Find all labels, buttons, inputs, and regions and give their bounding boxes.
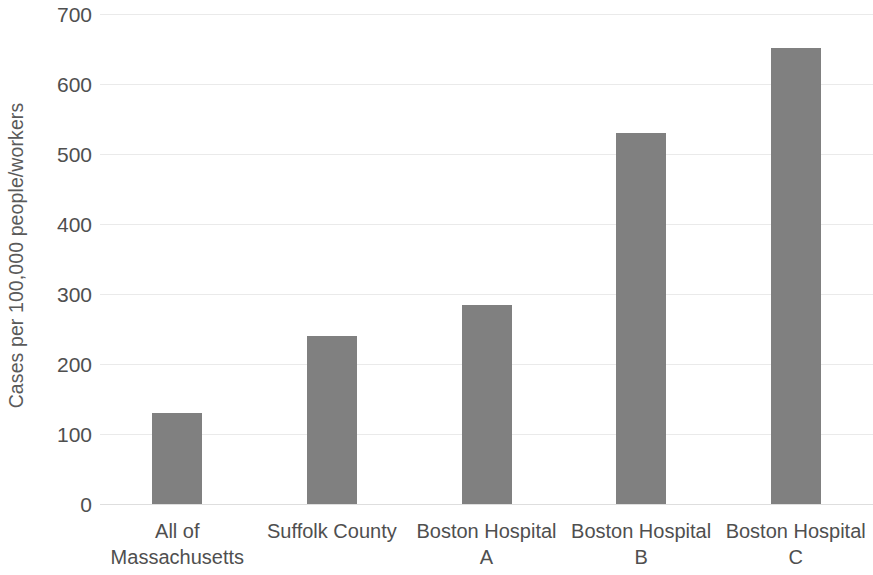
- x-axis-tick-label: Suffolk County: [254, 518, 410, 544]
- y-axis-title: Cases per 100,000 people/workers: [0, 0, 34, 510]
- bar: [462, 305, 512, 505]
- bars-layer: [100, 0, 873, 510]
- y-axis-tick-label: 200: [34, 354, 92, 375]
- bar: [307, 336, 357, 504]
- bar: [616, 133, 666, 504]
- x-axis-tick-label: Boston Hospital A: [409, 518, 565, 571]
- y-axis-tick-label: 0: [34, 494, 92, 515]
- plot-area: [100, 0, 873, 510]
- y-axis-tick-label: 400: [34, 214, 92, 235]
- y-axis-tick-label: 100: [34, 424, 92, 445]
- x-axis-tick-label: All of Massachusetts: [99, 518, 255, 571]
- x-axis-tick-labels: All of MassachusettsSuffolk CountyBoston…: [100, 510, 873, 575]
- x-axis-tick-label: Boston Hospital B: [563, 518, 719, 571]
- y-axis-tick-label: 500: [34, 144, 92, 165]
- bar-chart: Cases per 100,000 people/workers 0100200…: [0, 0, 873, 575]
- y-axis-tick-label: 600: [34, 74, 92, 95]
- y-axis-tick-label: 700: [34, 4, 92, 25]
- bar: [771, 48, 821, 504]
- bar: [152, 413, 202, 504]
- y-axis-title-text: Cases per 100,000 people/workers: [6, 102, 29, 408]
- x-axis-tick-label: Boston Hospital C: [718, 518, 873, 571]
- y-axis-tick-labels: 0100200300400500600700: [34, 0, 98, 520]
- y-axis-tick-label: 300: [34, 284, 92, 305]
